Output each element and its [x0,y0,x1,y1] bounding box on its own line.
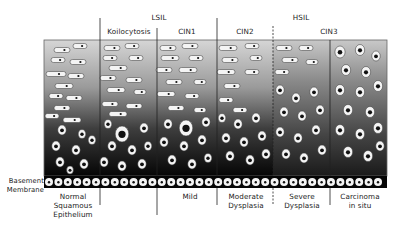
basal-cell [365,178,373,186]
round-cell [100,157,109,167]
round-cell [188,159,197,169]
basal-cell [318,178,326,186]
round-cell [234,119,243,129]
round-cell [363,151,372,162]
epithelium-layer [44,40,387,176]
round-cell [104,120,112,129]
flat-cell [45,114,59,119]
carcinoma-in-situ-label: Carcinoma in situ [334,192,386,210]
round-cell [373,81,382,92]
flat-cell [276,46,292,51]
flat-cell [219,46,237,51]
round-cell [355,129,364,140]
flat-cell [233,108,247,113]
flat-cell [250,56,262,61]
basal-cell [120,178,128,186]
flat-cell [245,70,259,75]
round-cell [282,149,291,159]
flat-cell [66,96,82,101]
basal-cell [205,178,213,186]
round-cell [144,142,152,151]
round-cell [341,65,350,76]
round-cell [240,137,249,147]
basal-cell [214,178,222,186]
basal-cell [299,178,307,186]
flat-cell [282,58,298,63]
flat-cell [103,56,117,61]
round-cell [164,119,173,129]
flat-cell [185,94,199,99]
round-cell [294,133,303,143]
round-cell [246,155,255,165]
basal-cell [252,178,260,186]
basal-cell [261,178,269,186]
round-cell [252,113,261,123]
flat-cell [126,78,142,83]
severe-dysplasia-label: Severe Dysplasia [278,192,326,210]
round-cell [355,45,364,56]
round-cell [198,135,207,145]
flat-cell [189,56,203,61]
round-cell [179,120,193,136]
basal-cell [158,178,166,186]
basal-cell [167,178,175,186]
flat-cell [55,84,73,89]
round-cell [292,93,301,103]
basement-membrane-row [44,176,387,188]
basal-cell [346,178,354,186]
basal-cell [233,178,241,186]
basal-cell [130,178,138,186]
moderate-dysplasia-label: Moderate Dysplasia [222,192,270,210]
basal-cell [327,178,335,186]
round-cell [128,145,137,155]
koilocytosis-label: Koilocytosis [102,27,156,36]
flat-cell [161,56,179,61]
round-cell [372,51,381,61]
basal-cell [111,178,119,186]
flat-cell [194,108,206,113]
flat-cell [100,76,116,81]
flat-cell [109,66,127,71]
round-cell [298,111,307,121]
flat-cell [306,60,318,65]
basal-cell [308,178,316,186]
basal-cell [148,178,156,186]
flat-cell [51,58,65,63]
flat-cell [217,70,235,75]
round-cell [335,125,344,136]
round-cell [312,125,321,135]
flat-cell [107,88,125,93]
flat-cell [219,98,233,103]
basal-cell [271,178,279,186]
flat-cell [125,44,139,49]
round-cell [365,107,374,118]
round-cell [52,141,61,151]
flat-cell [194,80,206,85]
round-cell [280,107,289,117]
round-cell [316,105,325,115]
round-cell [376,141,385,151]
lsil-group-label: LSIL [144,13,174,22]
flat-cell [104,46,120,51]
round-cell [335,46,345,58]
round-cell [300,153,309,163]
round-cell [343,105,352,116]
flat-cell [168,106,184,111]
round-cell [115,126,129,142]
basal-cell [242,178,250,186]
round-cell [222,133,231,143]
flat-cell [126,104,142,109]
round-cell [58,125,67,135]
round-cell [373,123,382,134]
round-cell [67,166,74,174]
flat-cell [182,44,198,49]
basal-cell [45,178,53,186]
basal-cell [139,178,147,186]
cin3-label: CIN3 [312,27,346,36]
flat-cell [157,92,175,97]
round-cell [118,161,127,171]
basal-cell [64,178,72,186]
flat-cell [109,112,127,117]
flat-cell [46,72,66,77]
round-cell [361,67,370,78]
